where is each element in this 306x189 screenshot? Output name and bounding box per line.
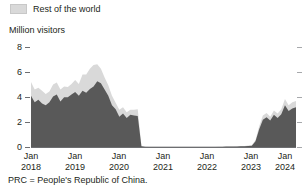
y-tick-mark-4	[25, 97, 30, 98]
y-tick-mark-2	[25, 122, 30, 123]
y-tick-mark-6	[25, 72, 30, 73]
y-tick-label-6: 6	[8, 67, 22, 77]
x-tick-2022: Jan 2022	[185, 151, 229, 173]
chart-figure: Rest of the world Million visitors 0 2 4…	[0, 0, 306, 189]
stacked-area-svg	[31, 46, 296, 147]
chart-legend: Rest of the world	[10, 3, 101, 15]
plot-area	[31, 46, 296, 147]
x-tick-2024: Jan 2024	[263, 151, 306, 173]
y-tick-mark-right-4	[297, 97, 302, 98]
y-axis-title: Million visitors	[9, 25, 65, 35]
x-axis-baseline	[31, 147, 296, 148]
legend-swatch-rest-of-world	[10, 4, 27, 14]
y-tick-mark-8	[25, 47, 30, 48]
x-tick-2021: Jan 2021	[141, 151, 185, 173]
y-tick-mark-0	[25, 147, 30, 148]
y-tick-label-4: 4	[8, 92, 22, 102]
y-tick-mark-right-6	[297, 72, 302, 73]
chart-footnote: PRC = People's Republic of China.	[8, 175, 148, 186]
x-tick-2020: Jan 2020	[97, 151, 141, 173]
y-tick-mark-right-8	[297, 47, 302, 48]
y-tick-label-8: 8	[8, 42, 22, 52]
legend-label-rest-of-world: Rest of the world	[33, 4, 101, 14]
x-tick-2018: Jan 2018	[9, 151, 53, 173]
x-tick-2019: Jan 2019	[53, 151, 97, 173]
y-tick-label-2: 2	[8, 117, 22, 127]
y-tick-mark-right-0	[297, 147, 302, 148]
y-tick-mark-right-2	[297, 122, 302, 123]
